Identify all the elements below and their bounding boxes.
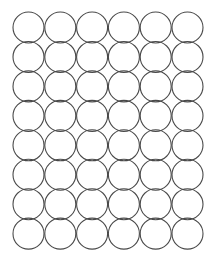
circle-label [13,41,44,72]
circle-label [140,189,171,220]
circle-label [140,71,171,102]
circle-label [140,159,171,190]
circle-label [140,100,171,131]
circle-label [140,130,171,161]
circle-label [45,100,76,131]
circle-label [172,189,203,220]
circle-label [13,159,44,190]
circle-label [140,12,171,43]
circle-label [45,189,76,220]
circle-label [108,130,139,161]
circle-label [77,189,108,220]
circle-label [13,100,44,131]
circle-label [77,130,108,161]
circle-label [13,218,44,249]
circle-label [45,159,76,190]
circle-label [172,41,203,72]
circle-label [45,12,76,43]
circle-label [108,71,139,102]
circle-label [108,189,139,220]
circle-label [77,12,108,43]
circle-label [108,100,139,131]
circle-label [77,159,108,190]
circle-label [108,159,139,190]
circle-label [108,12,139,43]
circle-label [172,12,203,43]
circle-label [140,41,171,72]
circle-label [172,71,203,102]
circle-grid [0,0,211,258]
circle-label [77,100,108,131]
circle-label [108,218,139,249]
circle-label [13,130,44,161]
circle-label [45,130,76,161]
circle-label [45,71,76,102]
circle-label [13,189,44,220]
circle-label [77,41,108,72]
circle-label [77,218,108,249]
circle-label [77,71,108,102]
circle-label [172,159,203,190]
circle-label [13,12,44,43]
circle-label [172,130,203,161]
circle-label [45,218,76,249]
circle-label [140,218,171,249]
circle-label [172,100,203,131]
circle-label [13,71,44,102]
circle-label [108,41,139,72]
circle-label [45,41,76,72]
circle-label [172,218,203,249]
